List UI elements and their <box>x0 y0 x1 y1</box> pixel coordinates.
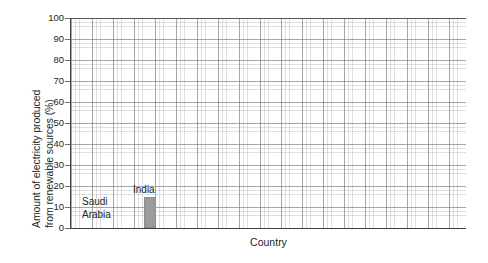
y-axis-tick-label: 70 <box>40 76 64 86</box>
y-axis-tick-label: 100 <box>40 13 64 23</box>
y-axis-tick-label: 50 <box>40 118 64 128</box>
plot-area <box>71 18 466 228</box>
plot-border-top <box>71 18 466 19</box>
y-axis-tick-label: 10 <box>40 202 64 212</box>
bar-chart: Amount of electricity produced from rene… <box>0 0 488 263</box>
x-axis-title: Country <box>71 236 466 248</box>
bar-label-india: India <box>133 184 155 197</box>
y-axis-tick-label: 60 <box>40 97 64 107</box>
y-axis-tick-label: 40 <box>40 139 64 149</box>
y-axis-tick-label: 90 <box>40 34 64 44</box>
x-axis-line <box>71 228 466 229</box>
y-axis-tick-label: 30 <box>40 160 64 170</box>
plot-border-left <box>70 18 71 229</box>
bar-india <box>144 197 156 229</box>
y-axis-tick-label: 80 <box>40 55 64 65</box>
bar-label-saudi-arabia: Saudi Arabia <box>82 196 111 221</box>
y-axis-tick-labels: 1009080706050403020100 <box>38 0 64 232</box>
y-axis-tick-label: 0 <box>40 223 64 233</box>
y-axis-tick-label: 20 <box>40 181 64 191</box>
